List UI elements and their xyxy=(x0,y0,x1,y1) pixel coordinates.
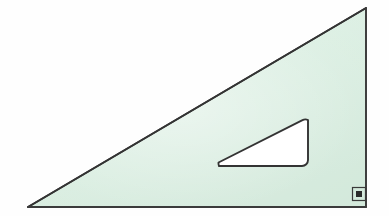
image-canvas: A translucent pale-green right-angled se… xyxy=(0,0,389,216)
set-square-illustration xyxy=(0,0,389,216)
right-angle-marker-dot xyxy=(356,191,362,197)
